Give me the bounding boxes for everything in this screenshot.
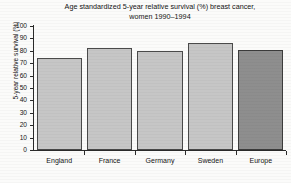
y-tick-label: 50 bbox=[8, 84, 27, 91]
y-tick-label: 0 bbox=[8, 146, 27, 153]
bar-chart-figure: Age standardized 5-year relative surviva… bbox=[0, 0, 291, 183]
y-tick-label: 10 bbox=[8, 134, 27, 141]
y-tick-label: 90 bbox=[8, 34, 27, 41]
y-tick-mark bbox=[30, 63, 34, 64]
x-axis-line bbox=[33, 150, 286, 151]
y-tick-label: 100 bbox=[8, 22, 27, 29]
y-tick-mark bbox=[30, 138, 34, 139]
y-tick-mark bbox=[30, 100, 34, 101]
x-tick-label-europe: Europe bbox=[236, 157, 286, 164]
y-tick-label: 20 bbox=[8, 121, 27, 128]
y-tick-mark bbox=[30, 150, 34, 151]
bar-england bbox=[37, 58, 82, 150]
x-tick-mark bbox=[286, 151, 287, 155]
plot-area bbox=[34, 26, 286, 150]
bar-germany bbox=[137, 51, 182, 150]
bar-europe bbox=[238, 50, 283, 150]
chart-title-line-1: Age standardized 5-year relative surviva… bbox=[65, 2, 256, 11]
x-tick-label-sweden: Sweden bbox=[185, 157, 235, 164]
bar-sweden bbox=[188, 43, 233, 150]
y-tick-label: 80 bbox=[8, 47, 27, 54]
x-tick-mark bbox=[236, 151, 237, 155]
y-tick-mark bbox=[30, 125, 34, 126]
y-tick-mark bbox=[30, 51, 34, 52]
y-tick-label: 60 bbox=[8, 72, 27, 79]
y-tick-mark bbox=[30, 88, 34, 89]
x-tick-mark bbox=[185, 151, 186, 155]
y-tick-label: 70 bbox=[8, 59, 27, 66]
y-tick-mark bbox=[30, 38, 34, 39]
y-tick-mark bbox=[30, 113, 34, 114]
x-tick-label-england: England bbox=[34, 157, 84, 164]
x-tick-label-germany: Germany bbox=[135, 157, 185, 164]
y-tick-label: 30 bbox=[8, 109, 27, 116]
chart-title: Age standardized 5-year relative surviva… bbox=[40, 2, 280, 21]
chart-title-line-2: women 1990–1994 bbox=[129, 12, 190, 21]
y-tick-label: 40 bbox=[8, 96, 27, 103]
x-tick-mark bbox=[135, 151, 136, 155]
bar-france bbox=[87, 48, 132, 150]
y-tick-mark bbox=[30, 76, 34, 77]
x-tick-label-france: France bbox=[84, 157, 134, 164]
y-tick-mark bbox=[30, 26, 34, 27]
x-tick-mark bbox=[84, 151, 85, 155]
